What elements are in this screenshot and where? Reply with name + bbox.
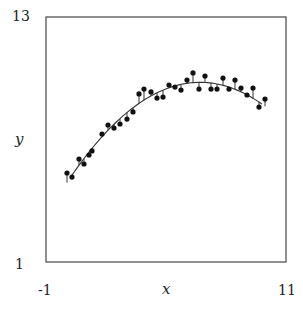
fit-curve	[72, 82, 262, 175]
data-point	[226, 86, 231, 91]
x-tick-right: 11	[278, 283, 296, 297]
data-point	[166, 82, 171, 87]
data-point	[208, 86, 213, 91]
data-point	[184, 77, 189, 82]
data-point	[190, 70, 195, 75]
data-point	[172, 84, 177, 89]
data-point	[69, 174, 74, 179]
data-point	[250, 85, 255, 90]
data-point	[238, 85, 243, 90]
data-point	[89, 148, 94, 153]
data-point	[232, 77, 237, 82]
data-point	[148, 89, 153, 94]
data-point	[130, 109, 135, 114]
data-point	[154, 95, 159, 100]
data-point	[202, 73, 207, 78]
data-point	[214, 86, 219, 91]
data-point	[124, 116, 129, 121]
data-point	[81, 161, 86, 166]
x-axis-label: x	[162, 282, 170, 297]
data-point	[244, 92, 249, 97]
data-points	[64, 70, 267, 179]
data-point	[111, 125, 116, 130]
x-tick-left: -1	[38, 283, 52, 297]
data-point	[256, 104, 261, 109]
data-point	[76, 157, 81, 162]
data-point	[105, 122, 110, 127]
data-point	[64, 170, 69, 175]
plot-frame	[46, 17, 286, 262]
data-point	[117, 121, 122, 126]
data-point	[136, 91, 141, 96]
data-point	[178, 87, 183, 92]
data-point	[220, 75, 225, 80]
data-point	[160, 94, 165, 99]
scatter-plot	[0, 0, 303, 314]
data-point	[262, 96, 267, 101]
data-point	[141, 86, 146, 91]
data-point	[196, 86, 201, 91]
data-point	[99, 131, 104, 136]
y-axis-label: y	[15, 132, 23, 147]
y-tick-top: 13	[12, 9, 30, 23]
y-tick-bottom: 1	[15, 257, 24, 271]
